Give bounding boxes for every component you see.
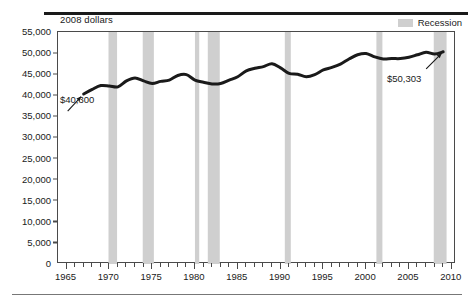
- x-axis-tick-mark: [288, 263, 289, 267]
- x-axis-tick-mark: [391, 263, 392, 267]
- y-axis-tick-label: 0: [46, 258, 57, 269]
- recession-band: [208, 32, 220, 264]
- y-axis-tick-label: 5,000: [27, 236, 57, 247]
- x-axis-tick-mark: [228, 263, 229, 267]
- y-axis-tick-label: 30,000: [22, 131, 57, 142]
- y-axis-tick-label: 45,000: [22, 68, 57, 79]
- x-axis-tick-mark: [237, 263, 238, 269]
- x-axis-tick-label: 1965: [55, 271, 76, 282]
- recession-band: [434, 32, 447, 264]
- x-axis-tick-label: 1975: [141, 271, 162, 282]
- x-axis-tick-mark: [434, 263, 435, 267]
- legend-item-recession: Recession: [418, 17, 462, 28]
- x-axis-tick-mark: [451, 263, 452, 269]
- x-axis-tick-mark: [262, 263, 263, 267]
- x-axis-tick-mark: [100, 263, 101, 267]
- x-axis-tick-mark: [339, 263, 340, 267]
- x-axis-tick-mark: [185, 263, 186, 267]
- x-axis-tick-label: 1985: [226, 271, 247, 282]
- annotation-end-value: $50,303: [387, 73, 421, 84]
- x-axis-tick-mark: [168, 263, 169, 267]
- x-axis-tick-mark: [408, 263, 409, 269]
- x-axis-tick-mark: [314, 263, 315, 267]
- legend: Recession: [398, 17, 462, 28]
- x-axis-tick-mark: [108, 263, 109, 269]
- x-axis-tick-mark: [322, 263, 323, 269]
- x-axis-tick-mark: [365, 263, 366, 269]
- x-axis-tick-mark: [143, 263, 144, 267]
- x-axis-tick-mark: [211, 263, 212, 267]
- y-axis-tick-label: 25,000: [22, 152, 57, 163]
- x-axis-tick-mark: [331, 263, 332, 267]
- x-axis-tick-mark: [254, 263, 255, 267]
- x-axis-tick-mark: [74, 263, 75, 267]
- x-axis-tick-mark: [91, 263, 92, 267]
- x-axis-tick-mark: [382, 263, 383, 267]
- x-axis-tick-mark: [125, 263, 126, 267]
- x-axis-tick-label: 2005: [397, 271, 418, 282]
- annotation-start-value: $40,300: [60, 94, 94, 105]
- recession-band-swatch-icon: [398, 19, 413, 27]
- recession-band: [195, 32, 199, 264]
- plot-svg: [58, 32, 456, 264]
- plot-area: [57, 31, 455, 263]
- x-axis-tick-mark: [442, 263, 443, 267]
- x-axis-tick-mark: [416, 263, 417, 267]
- x-axis-tick-mark: [357, 263, 358, 267]
- x-axis-ticks: 1965197019751980198519901995200020052010: [57, 263, 455, 293]
- y-axis-tick-label: 50,000: [22, 47, 57, 58]
- x-axis-tick-mark: [399, 263, 400, 267]
- x-axis-tick-label: 2000: [355, 271, 376, 282]
- x-axis-tick-label: 2010: [440, 271, 461, 282]
- x-axis-tick-mark: [348, 263, 349, 267]
- recession-band: [108, 32, 117, 264]
- y-axis-tick-label: 55,000: [22, 26, 57, 37]
- x-axis-tick-mark: [194, 263, 195, 269]
- x-axis-tick-mark: [425, 263, 426, 267]
- x-axis-tick-mark: [83, 263, 84, 267]
- x-axis-tick-label: 1995: [312, 271, 333, 282]
- x-axis-tick-mark: [220, 263, 221, 267]
- x-axis-tick-mark: [203, 263, 204, 267]
- x-axis-tick-mark: [374, 263, 375, 267]
- x-axis-tick-mark: [271, 263, 272, 267]
- y-axis-unit-label: 2008 dollars: [60, 14, 113, 25]
- recession-band: [285, 32, 291, 264]
- y-axis-tick-label: 35,000: [22, 110, 57, 121]
- x-axis-tick-mark: [117, 263, 118, 267]
- x-axis-tick-mark: [177, 263, 178, 267]
- x-axis-tick-label: 1990: [269, 271, 290, 282]
- x-axis-tick-mark: [151, 263, 152, 269]
- bottom-rule: [12, 294, 462, 295]
- x-axis-tick-mark: [66, 263, 67, 269]
- x-axis-tick-label: 1980: [183, 271, 204, 282]
- y-axis-tick-label: 15,000: [22, 194, 57, 205]
- x-axis-tick-mark: [160, 263, 161, 267]
- recession-band: [143, 32, 154, 264]
- x-axis-tick-mark: [245, 263, 246, 267]
- y-axis-ticks: 05,00010,00015,00020,00025,00030,00035,0…: [0, 31, 57, 263]
- x-axis-tick-mark: [305, 263, 306, 267]
- x-axis-tick-mark: [280, 263, 281, 269]
- chart-figure: 2008 dollars Recession 05,00010,00015,00…: [0, 0, 474, 306]
- x-axis-tick-label: 1970: [98, 271, 119, 282]
- x-axis-tick-mark: [134, 263, 135, 267]
- x-axis-tick-mark: [297, 263, 298, 267]
- y-axis-tick-label: 10,000: [22, 215, 57, 226]
- y-axis-tick-label: 20,000: [22, 173, 57, 184]
- recession-band: [376, 32, 382, 264]
- y-axis-tick-label: 40,000: [22, 89, 57, 100]
